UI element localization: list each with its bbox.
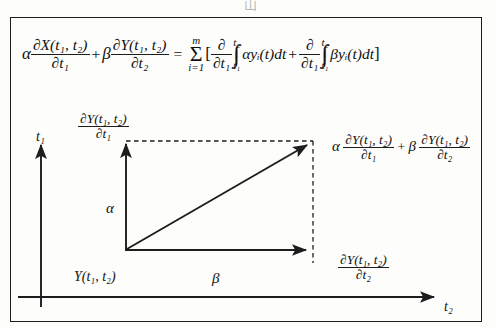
resultant-label-term1-denominator: ∂t₁ [343,147,394,162]
resultant-label-term2-numerator: ∂Y(t₁, t₂) [419,133,470,147]
partial-y-partial-t2-denominator: ∂t₂ [338,267,389,282]
origin-point-label: Y(t₁, t₂) [74,269,116,285]
beta-vector-label: β [212,270,219,287]
resultant-vector-arrow [127,145,307,249]
partial-y-partial-t2-label: ∂Y(t₁, t₂) ∂t₂ [338,253,389,282]
partial-y-partial-t1-denominator: ∂t₁ [78,126,129,141]
partial-y-partial-t1-label: ∂Y(t₁, t₂) ∂t₁ [78,112,129,141]
scanned-figure-page: 山 α ∂X(t₁, t₂) ∂t₁ + β ∂Y(t₁, t₂) ∂t₂ = … [0,0,496,327]
axis-t2-label: t₂ [444,299,453,315]
partial-y-partial-t1-numerator: ∂Y(t₁, t₂) [78,112,129,126]
resultant-vector-label: α ∂Y(t₁, t₂) ∂t₁ + β ∂Y(t₁, t₂) ∂t₂ [332,133,470,162]
resultant-label-term2: ∂Y(t₁, t₂) ∂t₂ [419,133,470,162]
partial-y-partial-t1-fraction: ∂Y(t₁, t₂) ∂t₁ [78,112,129,141]
resultant-label-alpha: α [332,138,340,154]
alpha-vector-label: α [106,200,114,217]
partial-y-partial-t2-fraction: ∂Y(t₁, t₂) ∂t₂ [338,253,389,282]
partial-y-partial-t2-numerator: ∂Y(t₁, t₂) [338,253,389,267]
page-top-partial-glyph: 山 [236,0,264,11]
axis-t1-label: t₁ [36,129,45,145]
resultant-label-term2-denominator: ∂t₂ [419,147,470,162]
resultant-label-plus: + [397,139,405,154]
resultant-label-term1: ∂Y(t₁, t₂) ∂t₁ [343,133,394,162]
vector-decomposition-diagram: t₁ t₂ α β Y(t₁, t₂) ∂Y(t₁, t₂) ∂t₁ ∂Y(t₁… [10,17,482,322]
resultant-label-term1-numerator: ∂Y(t₁, t₂) [343,133,394,147]
resultant-label-beta: β [408,138,415,154]
